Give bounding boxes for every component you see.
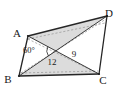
geometry-figure: A D B C 12 9 60°: [0, 0, 122, 91]
angle-arc-60: [47, 47, 49, 56]
measure-label-12: 12: [48, 57, 57, 67]
vertex-dot-B: [18, 75, 20, 77]
figure-canvas: A D B C 12 9 60°: [0, 0, 122, 91]
vertex-label-C: C: [99, 74, 106, 86]
vertex-label-B: B: [4, 73, 11, 85]
measure-label-9: 9: [72, 49, 77, 59]
vertex-dot-A: [27, 35, 29, 37]
edge-ab: [19, 36, 28, 76]
vertex-label-A: A: [13, 27, 21, 39]
angle-label-60-degrees: 60°: [23, 45, 35, 55]
edge-dc: [99, 16, 107, 74]
vertex-label-D: D: [105, 7, 113, 19]
